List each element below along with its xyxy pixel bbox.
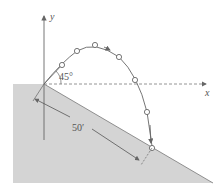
y-axis-label: y — [49, 11, 55, 22]
projectile-diagram: y x 45° 50′ — [0, 0, 223, 196]
incline-ground — [13, 84, 213, 183]
direction-arrow-down — [150, 125, 151, 143]
distance-label: 50′ — [72, 122, 84, 133]
x-axis-label: x — [204, 87, 210, 98]
angle-label: 45° — [59, 71, 73, 82]
